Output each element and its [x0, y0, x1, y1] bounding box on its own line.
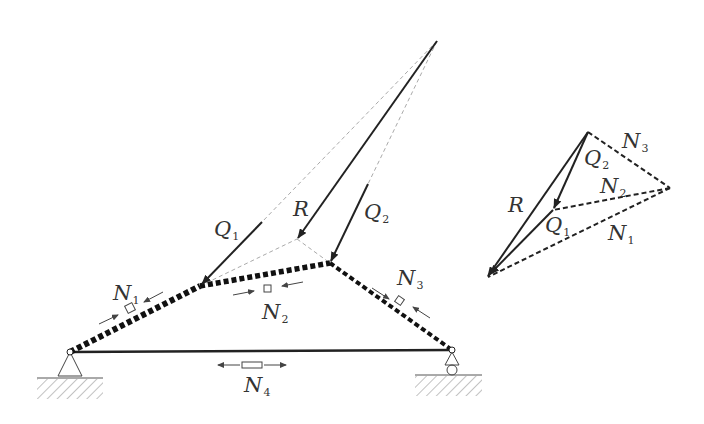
n2-indicator [233, 282, 303, 295]
label-n4: N4 [244, 375, 270, 398]
left-hinge [67, 349, 73, 355]
label-n3: N3 [397, 268, 423, 291]
polygon-label-q2: Q2 [584, 148, 609, 171]
label-q1: Q1 [214, 219, 239, 242]
n3-indicator [372, 288, 430, 318]
label-n1: N1 [113, 283, 139, 306]
right-hinge [449, 347, 455, 353]
polygon-label-r: R [508, 195, 524, 216]
n4-indicator [218, 362, 286, 368]
polygon-label-n1: N1 [608, 223, 634, 246]
right-support [415, 352, 482, 396]
label-q2: Q2 [364, 202, 389, 225]
load-q2-arrow [331, 184, 368, 261]
polygon-label-n3: N3 [622, 131, 648, 154]
truss-diagram [0, 0, 704, 424]
member-n3 [330, 263, 452, 350]
label-n2: N2 [262, 302, 288, 325]
member-n4 [70, 350, 452, 352]
polygon-label-q1: Q1 [545, 215, 570, 238]
polygon-label-n2: N2 [600, 176, 626, 199]
label-r: R [293, 199, 309, 220]
left-support [37, 352, 103, 399]
